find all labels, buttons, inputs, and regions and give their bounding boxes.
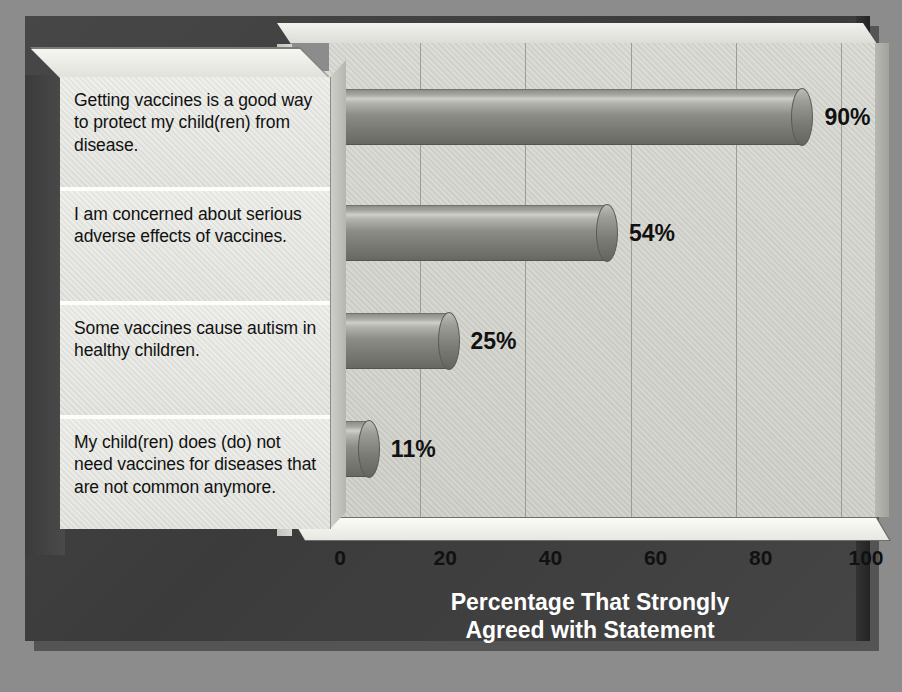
x-axis-title: Percentage That Strongly Agreed with Sta… [380, 588, 800, 644]
bar-value-label-1: 90% [824, 104, 870, 131]
category-label-2: I am concerned about serious adverse eff… [60, 191, 330, 305]
bar-end-cap-4 [358, 420, 380, 478]
x-tick-20: 20 [434, 546, 457, 570]
category-label-3: Some vaccines cause autism in healthy ch… [60, 305, 330, 419]
bar-end-cap-3 [438, 312, 460, 370]
label-panel-top-bevel [31, 49, 331, 79]
bar-value-label-2: 54% [629, 220, 675, 247]
x-axis-title-line-2: Agreed with Statement [380, 616, 800, 644]
bar-value-label-3: 25% [471, 328, 517, 355]
bar-end-cap-2 [596, 204, 618, 262]
plot-floor [292, 518, 890, 542]
label-panel-dark-edge [25, 75, 65, 555]
x-tick-0: 0 [334, 546, 346, 570]
category-label-column: Getting vaccines is a good way to protec… [60, 77, 330, 529]
category-label-1: Getting vaccines is a good way to protec… [60, 77, 330, 191]
bar-value-label-4: 11% [391, 436, 436, 463]
x-tick-60: 60 [644, 546, 667, 570]
bar-1 [329, 89, 813, 145]
x-axis-title-line-1: Percentage That Strongly [380, 588, 800, 616]
x-tick-40: 40 [539, 546, 562, 570]
bar-body-2 [323, 205, 607, 261]
label-panel-side-face [330, 60, 346, 530]
label-panel-right-edge [330, 77, 331, 529]
category-label-4: My child(ren) does (do) not need vaccine… [60, 419, 330, 529]
x-tick-100: 100 [848, 546, 883, 570]
chart-figure: Perspective 90%54%25%11% 020406080100 Ge… [0, 0, 902, 692]
bar-body-1 [329, 89, 802, 145]
bar-2 [323, 205, 618, 261]
bar-end-cap-1 [791, 88, 813, 146]
x-tick-80: 80 [749, 546, 772, 570]
plot-wall-right-face [875, 43, 889, 517]
plot-wall-top-bevel [277, 23, 877, 45]
